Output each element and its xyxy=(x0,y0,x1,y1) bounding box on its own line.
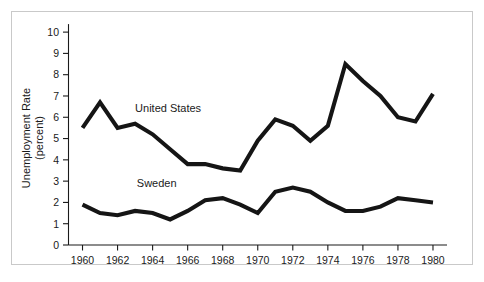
x-tick-label: 1976 xyxy=(351,254,375,266)
y-tick-label: 10 xyxy=(47,26,59,38)
y-tick-label: 6 xyxy=(53,111,59,123)
x-tick-label: 1964 xyxy=(141,254,165,266)
y-tick-label: 1 xyxy=(53,218,59,230)
x-tick-label: 1980 xyxy=(421,254,445,266)
y-axis-ticks: 012345678910 xyxy=(47,26,68,251)
y-tick-label: 4 xyxy=(53,154,59,166)
x-tick-label: 1968 xyxy=(211,254,235,266)
y-tick-label: 0 xyxy=(53,239,59,251)
series-label-united-states: United States xyxy=(135,102,202,114)
series-line-united-states xyxy=(83,64,433,170)
data-series xyxy=(83,64,433,219)
y-tick-label: 2 xyxy=(53,196,59,208)
y-axis-title-line2: (percent) xyxy=(33,116,45,160)
line-chart: Unemployment Rate (percent) 012345678910… xyxy=(0,0,484,282)
y-tick-label: 8 xyxy=(53,68,59,80)
x-tick-label: 1974 xyxy=(316,254,340,266)
x-tick-label: 1978 xyxy=(386,254,410,266)
y-tick-label: 3 xyxy=(53,175,59,187)
y-tick-label: 9 xyxy=(53,47,59,59)
chart-figure: Unemployment Rate (percent) 012345678910… xyxy=(0,0,484,282)
y-axis-title: Unemployment Rate (percent) xyxy=(20,88,45,188)
series-line-sweden xyxy=(83,188,433,220)
series-label-sweden: Sweden xyxy=(137,177,177,189)
y-tick-label: 5 xyxy=(53,132,59,144)
x-tick-label: 1966 xyxy=(176,254,200,266)
x-tick-label: 1962 xyxy=(106,254,130,266)
y-axis-title-line1: Unemployment Rate xyxy=(20,88,32,188)
x-tick-label: 1960 xyxy=(71,254,95,266)
x-tick-label: 1970 xyxy=(246,254,270,266)
x-tick-label: 1972 xyxy=(281,254,305,266)
x-axis-ticks: 1960196219641966196819701972197419761978… xyxy=(71,245,445,266)
y-tick-label: 7 xyxy=(53,90,59,102)
